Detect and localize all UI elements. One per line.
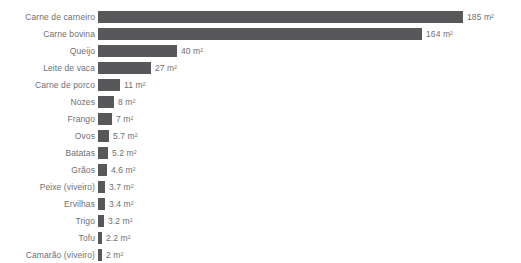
value-label: 3.4 m² [105, 199, 134, 209]
category-label: Carne bovina [0, 29, 98, 39]
bar [98, 147, 108, 159]
bar-row: Camarão (viveiro)2 m² [0, 246, 521, 263]
bar-row: Ovos5.7 m² [0, 127, 521, 144]
category-label: Grãos [0, 165, 98, 175]
value-label: 40 m² [177, 46, 203, 56]
category-label: Frango [0, 114, 98, 124]
bar-area: 164 m² [98, 25, 521, 42]
category-label: Camarão (viveiro) [0, 250, 98, 260]
bar-area: 3.4 m² [98, 195, 521, 212]
category-label: Carne de porco [0, 80, 98, 90]
bar-row: Tofu2.2 m² [0, 229, 521, 246]
value-label: 2.2 m² [102, 233, 131, 243]
category-label: Leite de vaca [0, 63, 98, 73]
bar [98, 45, 177, 57]
bar-area: 3.7 m² [98, 178, 521, 195]
value-label: 3.7 m² [105, 182, 134, 192]
bar-row: Carne bovina164 m² [0, 25, 521, 42]
category-label: Carne de carneiro [0, 12, 98, 22]
bar-row: Carne de porco11 m² [0, 76, 521, 93]
category-label: Peixe (viveiro) [0, 182, 98, 192]
bar-area: 40 m² [98, 42, 521, 59]
value-label: 8 m² [114, 97, 135, 107]
category-label: Nozes [0, 97, 98, 107]
bar-row: Trigo3.2 m² [0, 212, 521, 229]
bar-row: Ervilhas3.4 m² [0, 195, 521, 212]
bar-area: 2.2 m² [98, 229, 521, 246]
value-label: 164 m² [422, 29, 453, 39]
bar-area: 5.2 m² [98, 144, 521, 161]
bar-row: Nozes8 m² [0, 93, 521, 110]
bar-area: 4.6 m² [98, 161, 521, 178]
value-label: 185 m² [463, 12, 494, 22]
category-label: Queijo [0, 46, 98, 56]
bar [98, 130, 109, 142]
bar [98, 113, 112, 125]
category-label: Ovos [0, 131, 98, 141]
bar-row: Frango7 m² [0, 110, 521, 127]
value-label: 2 m² [102, 250, 123, 260]
category-label: Trigo [0, 216, 98, 226]
bar-row: Batatas5.2 m² [0, 144, 521, 161]
bar-row: Grãos4.6 m² [0, 161, 521, 178]
bar-row: Carne de carneiro185 m² [0, 8, 521, 25]
value-label: 5.7 m² [109, 131, 138, 141]
bar [98, 181, 105, 193]
bar [98, 28, 422, 40]
bar-area: 185 m² [98, 8, 521, 25]
bar-area: 7 m² [98, 110, 521, 127]
bar [98, 62, 151, 74]
value-label: 11 m² [120, 80, 146, 90]
bar [98, 198, 105, 210]
category-label: Tofu [0, 233, 98, 243]
bar [98, 11, 463, 23]
bar-area: 8 m² [98, 93, 521, 110]
bar [98, 79, 120, 91]
bar-area: 2 m² [98, 246, 521, 263]
category-label: Ervilhas [0, 199, 98, 209]
value-label: 7 m² [112, 114, 133, 124]
bar-row: Queijo40 m² [0, 42, 521, 59]
bar-row: Peixe (viveiro)3.7 m² [0, 178, 521, 195]
bar-area: 3.2 m² [98, 212, 521, 229]
bar [98, 164, 107, 176]
bar-area: 27 m² [98, 59, 521, 76]
bar-area: 11 m² [98, 76, 521, 93]
bar-row: Leite de vaca27 m² [0, 59, 521, 76]
bar-rows: Carne de carneiro185 m²Carne bovina164 m… [0, 8, 521, 263]
value-label: 4.6 m² [107, 165, 136, 175]
value-label: 3.2 m² [104, 216, 133, 226]
bar-area: 5.7 m² [98, 127, 521, 144]
bar [98, 96, 114, 108]
value-label: 5.2 m² [108, 148, 137, 158]
category-label: Batatas [0, 148, 98, 158]
value-label: 27 m² [151, 63, 177, 73]
